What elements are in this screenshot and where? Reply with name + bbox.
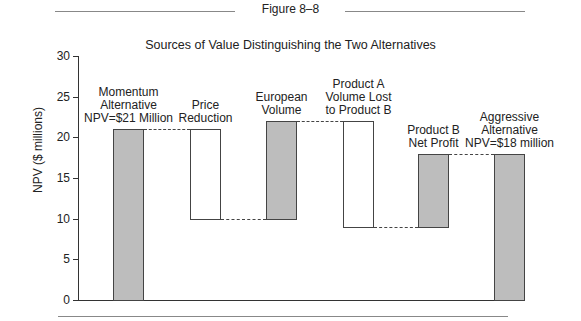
y-tick-label: 30 xyxy=(30,49,70,63)
y-tick-label: 15 xyxy=(30,171,70,185)
y-tick-label: 10 xyxy=(30,212,70,226)
y-tick-label: 0 xyxy=(30,293,70,307)
bar xyxy=(494,154,525,301)
bar-label-line: to Product B xyxy=(294,104,424,117)
bar-label-line: NPV=$18 million xyxy=(445,137,575,150)
x-axis xyxy=(78,300,518,301)
bar-label-line: Aggressive xyxy=(445,111,575,124)
bar xyxy=(418,154,449,228)
y-tick xyxy=(73,259,78,260)
connector-dashed-line xyxy=(221,219,266,220)
bottom-rule xyxy=(58,316,508,317)
y-axis-label: NPV ($ millions) xyxy=(31,100,45,200)
bar xyxy=(190,129,221,219)
connector-dashed-line xyxy=(374,227,418,228)
bar xyxy=(113,129,144,301)
connector-dashed-line xyxy=(297,121,343,122)
y-tick xyxy=(73,56,78,57)
bar-label-line: Alternative xyxy=(445,124,575,137)
y-tick-label: 20 xyxy=(30,130,70,144)
y-tick xyxy=(73,137,78,138)
connector-dashed-line xyxy=(449,154,494,155)
chart-title: Sources of Value Distinguishing the Two … xyxy=(0,38,581,52)
y-tick xyxy=(73,219,78,220)
figure-label-text: Figure 8–8 xyxy=(252,2,329,16)
y-tick xyxy=(73,300,78,301)
bar xyxy=(266,121,297,220)
figure-label: Figure 8–8 xyxy=(0,2,581,16)
bar-label: AggressiveAlternativeNPV=$18 million xyxy=(445,111,575,150)
bar-label: Product AVolume Lostto Product B xyxy=(294,78,424,117)
y-tick-label: 5 xyxy=(30,252,70,266)
connector-dashed-line xyxy=(144,129,190,130)
y-tick xyxy=(73,178,78,179)
